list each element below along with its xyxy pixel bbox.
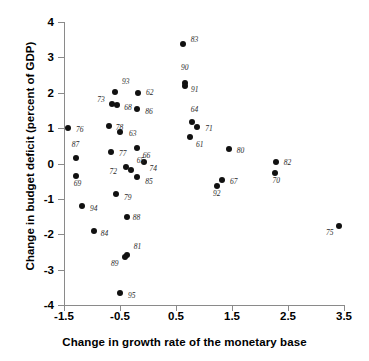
y-tick-mark	[58, 22, 64, 23]
y-tick-mark	[58, 270, 64, 271]
data-point-label-87: 87	[72, 141, 80, 149]
data-point-label-86: 86	[145, 108, 153, 116]
y-tick-mark	[58, 164, 64, 165]
data-point-label-64: 64	[191, 106, 199, 114]
data-point-69	[73, 173, 79, 179]
x-axis-line	[64, 305, 345, 306]
data-point-label-89: 89	[111, 260, 119, 268]
data-point-79	[113, 191, 119, 197]
data-point-label-91: 91	[191, 86, 199, 94]
data-point-label-77: 77	[119, 150, 127, 158]
data-point-68	[114, 102, 120, 108]
x-tick-label: 0.5	[151, 310, 201, 322]
data-point-label-65: 65	[137, 157, 145, 165]
data-point-86	[134, 106, 140, 112]
scatter-chart-figure: 43210-1-2-3-4 -1.5-0.50.51.52.53.5 83909…	[0, 0, 369, 361]
data-point-label-81: 81	[134, 243, 142, 251]
data-point-label-84: 84	[101, 230, 109, 238]
data-point-label-72: 72	[110, 168, 118, 176]
data-point-76	[65, 125, 71, 131]
data-point-88	[124, 214, 130, 220]
data-point-label-94: 94	[90, 205, 98, 213]
data-point-64	[189, 119, 195, 125]
data-point-82	[273, 159, 279, 165]
data-point-label-93: 93	[122, 78, 130, 86]
y-tick-mark	[58, 199, 64, 200]
data-point-84	[91, 228, 97, 234]
data-point-92	[214, 183, 220, 189]
x-tick-label: 3.5	[319, 310, 369, 322]
data-point-label-90: 90	[181, 64, 189, 72]
data-point-78	[106, 123, 112, 129]
data-point-65	[128, 167, 134, 173]
data-point-label-74: 74	[150, 165, 158, 173]
x-axis-title: Change in growth rate of the monetary ba…	[0, 336, 369, 348]
data-point-67	[219, 177, 225, 183]
data-point-label-95: 95	[128, 292, 136, 300]
data-point-61	[187, 134, 193, 140]
data-point-94	[79, 203, 85, 209]
x-tick-label: 1.5	[207, 310, 257, 322]
data-point-label-79: 79	[124, 194, 132, 202]
y-tick-mark	[58, 128, 64, 129]
data-point-77	[108, 149, 114, 155]
y-axis-title: Change in budget deficit (percent of GDP…	[24, 6, 36, 306]
data-point-label-68: 68	[124, 104, 132, 112]
data-point-label-92: 92	[213, 190, 221, 198]
data-point-label-82: 82	[284, 159, 292, 167]
data-point-95	[117, 290, 123, 296]
data-point-label-73: 73	[97, 96, 105, 104]
data-point-label-61: 61	[196, 141, 204, 149]
data-point-label-69: 69	[74, 180, 82, 188]
data-point-87	[73, 155, 79, 161]
x-tick-label: 2.5	[263, 310, 313, 322]
data-point-label-75: 75	[326, 229, 334, 237]
data-point-62	[135, 90, 141, 96]
data-point-label-70: 70	[273, 177, 281, 185]
data-point-89	[122, 254, 128, 260]
y-axis-line	[64, 22, 65, 305]
data-point-label-71: 71	[205, 125, 213, 133]
data-point-label-85: 85	[145, 178, 153, 186]
y-tick-mark	[58, 57, 64, 58]
data-point-label-83: 83	[191, 36, 199, 44]
data-point-85	[134, 174, 140, 180]
data-point-label-88: 88	[133, 214, 141, 222]
data-point-80	[226, 146, 232, 152]
x-tick-label: -1.5	[39, 310, 89, 322]
data-point-label-80: 80	[237, 147, 245, 155]
y-tick-mark	[58, 93, 64, 94]
data-point-83	[180, 41, 186, 47]
data-point-63	[117, 129, 123, 135]
data-point-91	[182, 83, 188, 89]
data-point-71	[194, 124, 200, 130]
data-point-label-76: 76	[76, 126, 84, 134]
data-point-75	[336, 223, 342, 229]
data-point-label-62: 62	[146, 89, 154, 97]
data-point-93	[112, 89, 118, 95]
x-tick-label: -0.5	[95, 310, 145, 322]
data-point-label-63: 63	[129, 130, 137, 138]
y-tick-mark	[58, 234, 64, 235]
data-point-label-67: 67	[230, 178, 238, 186]
data-point-66	[134, 145, 140, 151]
